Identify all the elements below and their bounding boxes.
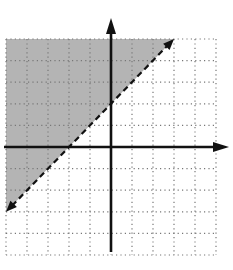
y-axis-arrow-icon	[106, 18, 116, 34]
coordinate-plane	[0, 0, 233, 270]
x-axis-arrow-icon	[213, 142, 229, 152]
